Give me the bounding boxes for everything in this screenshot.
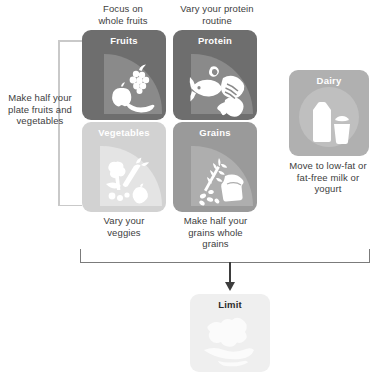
- caption-protein-above: Vary your protein routine: [168, 3, 266, 26]
- protein-icon: [189, 62, 253, 118]
- caption-fruits-above: Focus on whole fruits: [78, 3, 168, 26]
- tile-dairy[interactable]: Dairy: [289, 70, 369, 156]
- bottom-bracket-right-riser: [369, 249, 370, 263]
- caption-fruits-line1: Focus on: [78, 3, 168, 15]
- caption-left-line1: Make half your: [0, 92, 80, 104]
- diagram-canvas: Focus on whole fruits Vary your protein …: [0, 0, 373, 382]
- tile-limit[interactable]: Limit: [190, 294, 270, 372]
- caption-dairy-line3: yogurt: [282, 183, 373, 195]
- tile-label-vegetables: Vegetables: [82, 127, 166, 138]
- caption-fruits-line2: whole fruits: [78, 15, 168, 27]
- tile-label-protein: Protein: [173, 35, 257, 46]
- caption-left-line2: plate fruits and: [0, 104, 80, 116]
- caption-vegetables-line2: veggies: [79, 227, 169, 239]
- dairy-icon: [305, 96, 355, 150]
- tile-vegetables[interactable]: Vegetables: [82, 122, 166, 212]
- caption-left-line3: vegetables: [0, 115, 80, 127]
- caption-protein-line2: routine: [168, 15, 266, 27]
- grains-icon: [189, 154, 251, 210]
- bottom-bracket-left-riser: [80, 249, 81, 263]
- caption-protein-line1: Vary your protein: [168, 3, 266, 15]
- caption-dairy-line1: Move to low-fat or: [282, 160, 373, 172]
- limit-arrow-head: [225, 282, 235, 291]
- caption-grains-line3: grains: [168, 238, 263, 250]
- caption-vegetables-line1: Vary your: [79, 215, 169, 227]
- fruits-icon: [106, 64, 162, 116]
- caption-grains-below: Make half your grains whole grains: [168, 215, 263, 250]
- left-bracket-bottom-stub: [58, 205, 82, 207]
- caption-vegetables-below: Vary your veggies: [79, 215, 169, 238]
- caption-grains-line1: Make half your: [168, 215, 263, 227]
- caption-left-bracket: Make half your plate fruits and vegetabl…: [0, 92, 80, 127]
- tile-label-dairy: Dairy: [289, 75, 369, 86]
- limit-icon: [198, 314, 262, 370]
- vegetables-icon: [100, 154, 160, 210]
- caption-dairy-below: Move to low-fat or fat-free milk or yogu…: [282, 160, 373, 195]
- tile-label-limit: Limit: [190, 299, 270, 310]
- tile-protein[interactable]: Protein: [173, 30, 257, 120]
- left-bracket-top-stub: [58, 40, 82, 42]
- tile-fruits[interactable]: Fruits: [82, 30, 166, 120]
- limit-arrow-shaft: [229, 262, 230, 284]
- tile-label-fruits: Fruits: [82, 35, 166, 46]
- caption-dairy-line2: fat-free milk or: [282, 172, 373, 184]
- tile-label-grains: Grains: [173, 127, 257, 138]
- tile-grains[interactable]: Grains: [173, 122, 257, 212]
- caption-grains-line2: grains whole: [168, 227, 263, 239]
- bottom-bracket-span: [80, 262, 370, 263]
